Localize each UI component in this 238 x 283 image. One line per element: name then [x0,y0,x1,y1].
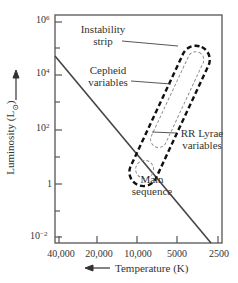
x-tick-2500: 2500 [204,249,234,259]
y-tick-1e6: 106 [36,15,50,25]
y-axis-ticks [55,22,62,237]
x-tick-5000: 5000 [162,249,192,259]
x-tick-20000: 20,000 [82,249,116,259]
x-arrow-icon [85,265,110,271]
y-axis-label: Luminosity (L⊙) [4,88,19,188]
x-tick-40000: 40,000 [44,249,78,259]
x-axis-ticks [59,236,218,243]
x-axis-label: Temperature (K) [115,262,188,274]
instability-strip-label: Instabilitystrip [73,23,133,47]
y-tick-1e2: 102 [36,123,50,133]
y-tick-1e4: 104 [36,68,50,78]
instability-strip-outline [125,41,215,191]
main-sequence-label: Mainsequence [124,173,180,197]
cepheid-variables-label: Cepheidvariables [83,64,133,88]
rr-lyrae-variables-label: RR Lyraevariables [176,127,228,151]
y-tick-1e-2: 10−2 [30,231,47,241]
x-tick-10000: 10,000 [121,249,155,259]
y-tick-1: 1 [47,179,52,189]
